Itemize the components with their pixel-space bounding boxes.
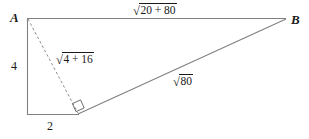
vertex-label-B: B	[291, 13, 300, 26]
radicand-dashed-side: 4 + 16	[62, 52, 94, 66]
label-segment-AB-length: √20 + 80	[133, 3, 177, 17]
radicand-lower-side: 80	[179, 74, 193, 88]
label-horizontal-leg-length: 2	[47, 120, 53, 132]
geometry-figure: A B √20 + 80 √4 + 16 √80 4 2	[0, 0, 309, 139]
label-dashed-segment-length: √4 + 16	[56, 52, 94, 66]
radicand-top-side: 20 + 80	[139, 3, 176, 17]
label-vertical-leg-length: 4	[11, 60, 17, 72]
right-angle-square-icon	[72, 100, 84, 112]
vertex-label-A: A	[10, 11, 19, 24]
line-segment-to-B	[78, 19, 286, 114]
label-segment-to-B-length: √80	[173, 74, 193, 88]
